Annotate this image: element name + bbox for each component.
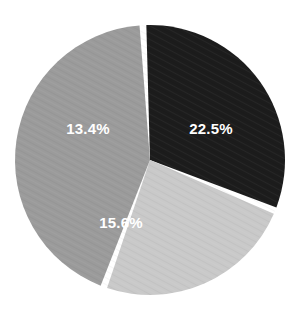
slice-label-light-gray: 15.6% [99, 214, 143, 231]
pie-chart: 22.5% 15.6% 13.4% [0, 0, 297, 320]
slice-label-medium-gray: 13.4% [66, 120, 110, 137]
slice-label-dark: 22.5% [189, 120, 233, 137]
pie-chart-container: 22.5% 15.6% 13.4% [0, 0, 297, 320]
